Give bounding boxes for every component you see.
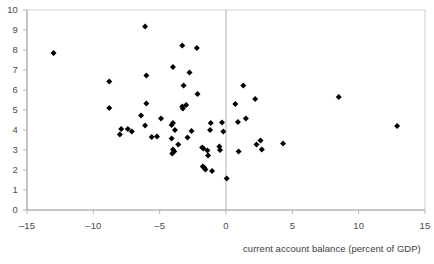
y-axis-tick-label: 1 [0,184,18,195]
y-axis-tick-label: 8 [0,44,18,55]
x-axis-tick-label: –10 [78,220,108,231]
scatter-chart: 012345678910–15–10–5051015 current accou… [0,0,434,264]
x-axis-tick-label: 10 [344,220,374,231]
y-axis-tick-label: 9 [0,24,18,35]
y-axis-tick-label: 3 [0,144,18,155]
y-axis-tick-label: 0 [0,204,18,215]
x-axis-tick-label: –15 [12,220,42,231]
y-axis-tick-label: 7 [0,64,18,75]
x-axis-tick-label: –5 [145,220,175,231]
y-axis-tick-label: 6 [0,84,18,95]
y-axis-tick-label: 10 [0,4,18,15]
y-axis-tick-label: 5 [0,104,18,115]
x-axis-title: current account balance (percent of GDP) [243,243,421,254]
x-axis-tick-label: 5 [277,220,307,231]
y-axis-tick-label: 2 [0,164,18,175]
x-axis-tick-label: 0 [211,220,241,231]
y-axis-tick-label: 4 [0,124,18,135]
x-axis-tick-label: 15 [410,220,434,231]
